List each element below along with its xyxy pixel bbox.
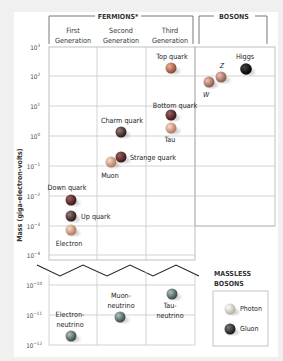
generation-1-line2: Generation (55, 36, 91, 45)
particle-mass-diagram: FERMIONS* BOSONS First Generation Second… (0, 0, 283, 361)
svg-text:Top quark: Top quark (155, 52, 188, 61)
svg-text:Gluon: Gluon (240, 325, 258, 333)
particle-up-quark: Up quark (66, 211, 111, 223)
svg-text:W: W (203, 91, 210, 99)
y-axis-label: Mass (giga-electron-volts) (16, 148, 24, 241)
particle-strange-quark: Strange quark (116, 152, 177, 164)
generation-3-line2: Generation (152, 36, 188, 45)
svg-text:Bottom quark: Bottom quark (153, 101, 198, 110)
massless-title-1: MASSLESS (214, 270, 251, 278)
svg-text:neutrino: neutrino (107, 301, 134, 310)
svg-text:Photon: Photon (240, 305, 262, 313)
svg-text:Charm quark: Charm quark (101, 116, 143, 125)
svg-text:Strange quark: Strange quark (130, 153, 176, 162)
svg-text:Tau: Tau (164, 135, 176, 144)
svg-text:Down quark: Down quark (48, 183, 87, 192)
svg-text:Electron: Electron (56, 239, 83, 248)
fermions-label: FERMIONS* (98, 13, 139, 21)
generation-2-line1: Second (109, 26, 133, 35)
svg-text:neutrino: neutrino (156, 311, 183, 320)
massless-legend-box (213, 291, 268, 346)
svg-text:Up quark: Up quark (81, 212, 111, 221)
massless-title-2: BOSONS (214, 280, 244, 288)
generation-3-line1: Third (161, 26, 178, 35)
bosons-label: BOSONS (219, 13, 249, 21)
svg-text:Z: Z (219, 62, 225, 70)
svg-text:Electron-: Electron- (56, 310, 86, 319)
svg-text:Tau-: Tau- (162, 301, 177, 310)
svg-text:neutrino: neutrino (56, 320, 83, 329)
generation-1-line1: First (66, 26, 80, 35)
svg-text:Higgs: Higgs (236, 52, 255, 61)
svg-text:Muon-: Muon- (111, 291, 132, 300)
svg-text:Muon: Muon (101, 171, 119, 180)
generation-2-line2: Generation (103, 36, 139, 45)
